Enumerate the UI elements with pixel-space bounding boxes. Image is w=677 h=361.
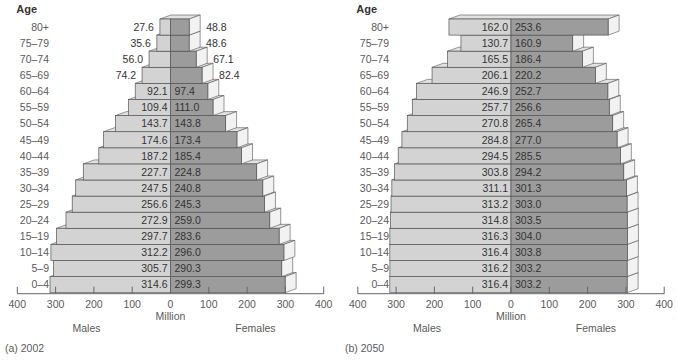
male-value-label: 316.4 <box>482 278 508 290</box>
x-tick-label: 400 <box>655 298 673 310</box>
age-label: 45–49 <box>360 134 389 146</box>
x-tick-label: 100 <box>200 298 218 310</box>
female-value-label: 303.2 <box>515 278 541 290</box>
male-value-label: 314.8 <box>482 214 508 226</box>
x-axis-title: Million <box>156 310 186 322</box>
males-label: Males <box>72 322 100 334</box>
male-value-label: 227.7 <box>141 166 167 178</box>
x-tick-label: 400 <box>9 298 27 310</box>
age-label: 40–44 <box>20 150 49 162</box>
female-value-label: 252.7 <box>515 85 541 97</box>
age-label: 55–59 <box>20 101 49 113</box>
female-value-label: 82.4 <box>219 69 240 81</box>
male-value-label: 56.0 <box>123 53 144 65</box>
female-value-label: 67.1 <box>213 53 234 65</box>
male-value-label: 109.4 <box>141 101 167 113</box>
x-tick-label: 200 <box>426 298 444 310</box>
male-bar-75–79 <box>157 35 171 51</box>
male-value-label: 35.6 <box>130 37 151 49</box>
male-value-label: 246.9 <box>482 85 508 97</box>
age-label: 40–44 <box>360 150 389 162</box>
x-tick-label: 400 <box>315 298 333 310</box>
female-value-label: 48.6 <box>206 37 227 49</box>
age-label: 30–34 <box>20 182 49 194</box>
age-label: 35–39 <box>20 166 49 178</box>
female-value-label: 160.9 <box>515 37 541 49</box>
male-value-label: 165.5 <box>482 53 508 65</box>
male-value-label: 312.2 <box>141 246 167 258</box>
female-value-label: 265.4 <box>515 117 541 129</box>
male-value-label: 316.2 <box>482 262 508 274</box>
male-value-label: 316.4 <box>482 246 508 258</box>
x-tick-label: 200 <box>238 298 256 310</box>
age-label: 45–49 <box>20 134 49 146</box>
female-value-label: 304.0 <box>515 230 541 242</box>
male-value-label: 311.1 <box>483 182 509 194</box>
age-label: 0–4 <box>371 278 389 290</box>
x-tick-label: 0 <box>168 298 174 310</box>
female-value-label: 303.8 <box>515 246 541 258</box>
x-tick-label: 300 <box>277 298 295 310</box>
male-value-label: 284.8 <box>482 134 508 146</box>
male-value-label: 303.8 <box>482 166 508 178</box>
age-label: 50–54 <box>20 117 49 129</box>
x-tick-label: 100 <box>541 298 559 310</box>
age-label: 5–9 <box>31 262 49 274</box>
female-value-label: 253.6 <box>515 21 541 33</box>
females-label: Females <box>576 322 616 334</box>
male-value-label: 174.6 <box>141 134 167 146</box>
age-label: 70–74 <box>360 53 389 65</box>
male-value-label: 130.7 <box>482 37 508 49</box>
female-bar-65–69 <box>171 67 203 83</box>
female-value-label: 143.8 <box>175 117 201 129</box>
male-value-label: 92.1 <box>147 85 168 97</box>
female-value-label: 256.6 <box>515 101 541 113</box>
age-label: 70–74 <box>20 53 49 65</box>
age-label: 55–59 <box>360 101 389 113</box>
age-label: 65–69 <box>20 69 49 81</box>
x-tick-label: 300 <box>387 298 405 310</box>
female-value-label: 245.3 <box>175 198 201 210</box>
panel-label: (b) 2050 <box>345 342 384 354</box>
x-tick-label: 300 <box>617 298 635 310</box>
female-bar-70–74 <box>171 51 197 67</box>
x-tick-label: 300 <box>47 298 65 310</box>
x-tick-label: 400 <box>349 298 367 310</box>
male-value-label: 27.6 <box>133 21 154 33</box>
male-bar-80+ <box>160 19 171 35</box>
male-value-label: 143.7 <box>141 117 167 129</box>
panel-label: (a) 2002 <box>5 342 44 354</box>
age-label: 50–54 <box>360 117 389 129</box>
male-value-label: 256.6 <box>141 198 167 210</box>
female-value-label: 283.6 <box>175 230 201 242</box>
male-value-label: 305.7 <box>141 262 167 274</box>
female-value-label: 48.8 <box>206 21 227 33</box>
age-label: 75–79 <box>360 37 389 49</box>
female-value-label: 259.0 <box>175 214 201 226</box>
male-value-label: 313.2 <box>482 198 508 210</box>
age-label: 20–24 <box>20 214 49 226</box>
x-tick-label: 0 <box>508 298 514 310</box>
bar-top-face <box>449 15 619 19</box>
age-label: 25–29 <box>20 198 49 210</box>
males-label: Males <box>413 322 441 334</box>
female-value-label: 185.4 <box>175 150 201 162</box>
female-value-label: 224.8 <box>175 166 201 178</box>
male-value-label: 206.1 <box>482 69 508 81</box>
age-label: 0–4 <box>31 278 49 290</box>
age-label: 80+ <box>31 21 49 33</box>
female-value-label: 299.3 <box>175 278 201 290</box>
age-axis-title: Age <box>356 3 377 15</box>
male-value-label: 294.5 <box>482 150 508 162</box>
age-label: 60–64 <box>20 85 49 97</box>
male-value-label: 74.2 <box>116 69 137 81</box>
female-bar-80+ <box>171 19 190 35</box>
age-label: 15–19 <box>360 230 389 242</box>
age-label: 30–34 <box>360 182 389 194</box>
male-value-label: 314.6 <box>141 278 167 290</box>
male-value-label: 272.9 <box>141 214 167 226</box>
female-value-label: 290.3 <box>175 262 201 274</box>
age-label: 20–24 <box>360 214 389 226</box>
female-bar-75–79 <box>171 35 190 51</box>
x-axis-title: Million <box>496 310 526 322</box>
